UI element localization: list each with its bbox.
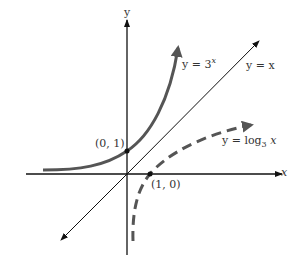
exp-curve-label: y = 3x [182, 56, 216, 71]
y-axis-label: y [124, 6, 130, 19]
log-curve-label: y = log3 x [222, 134, 276, 149]
point-0-1-label: (0, 1) [95, 137, 125, 150]
identity-line-label: y = x [246, 59, 275, 72]
point-1-0 [148, 172, 153, 177]
graph-figure: y x y = 3x y = x y = log3 x (0, 1) (1, 0… [0, 0, 293, 270]
point-1-0-label: (1, 0) [151, 178, 181, 191]
exponential-curve [43, 48, 178, 170]
x-axis-label: x [281, 166, 287, 179]
point-0-1 [125, 149, 130, 154]
